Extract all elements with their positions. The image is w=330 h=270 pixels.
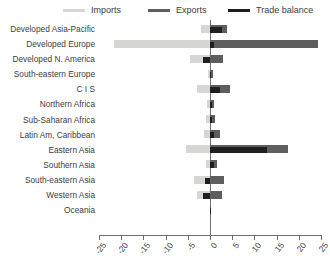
bar-trade-balance bbox=[210, 117, 212, 123]
legend-label-exports: Exports bbox=[176, 5, 207, 15]
category-label: Northern Africa bbox=[40, 100, 95, 109]
category-label: South-eastern Asia bbox=[25, 176, 95, 185]
x-axis: -25-20-15-10-50510152025 bbox=[99, 235, 321, 270]
bar-exports bbox=[210, 40, 318, 48]
category-label: South-eastern Europe bbox=[14, 70, 95, 79]
bar-trade-balance bbox=[210, 132, 214, 138]
legend-swatch-exports bbox=[148, 9, 170, 12]
bar-imports bbox=[197, 85, 210, 93]
legend-label-imports: Imports bbox=[91, 5, 121, 15]
category-label: C I S bbox=[77, 85, 95, 94]
legend-item-imports: Imports bbox=[63, 0, 121, 20]
bar-trade-balance bbox=[210, 102, 212, 108]
category-label: Developed Europe bbox=[26, 40, 95, 49]
bar-exports bbox=[210, 176, 224, 184]
bar-trade-balance bbox=[203, 57, 210, 63]
category-label: Southern Asia bbox=[43, 161, 95, 170]
bar-exports bbox=[210, 55, 223, 63]
bar-trade-balance bbox=[210, 162, 214, 168]
bar-trade-balance bbox=[210, 147, 267, 153]
category-label: Western Asia bbox=[46, 191, 95, 200]
bar-trade-balance bbox=[203, 193, 210, 199]
category-label: Latin Am, Caribbean bbox=[20, 131, 95, 140]
plot-area: Developed Asia-PacificDeveloped EuropeDe… bbox=[0, 20, 321, 235]
category-label: Oceania bbox=[64, 206, 95, 215]
zero-baseline bbox=[210, 20, 211, 235]
category-label: Sub-Saharan Africa bbox=[23, 116, 95, 125]
chart-legend: Imports Exports Trade balance bbox=[0, 0, 321, 20]
bar-trade-balance bbox=[210, 42, 214, 48]
bar-trade-balance bbox=[210, 72, 211, 78]
legend-item-exports: Exports bbox=[148, 0, 207, 20]
bar-imports bbox=[186, 145, 210, 153]
bar-imports bbox=[201, 25, 210, 33]
category-label: Developed N. America bbox=[12, 55, 95, 64]
legend-swatch-imports bbox=[63, 9, 85, 12]
category-label: Developed Asia-Pacific bbox=[10, 25, 95, 34]
legend-label-trade-balance: Trade balance bbox=[256, 5, 313, 15]
bars-container bbox=[99, 20, 321, 235]
bar-exports bbox=[210, 191, 222, 199]
category-axis-labels: Developed Asia-PacificDeveloped EuropeDe… bbox=[0, 20, 97, 235]
legend-item-trade-balance: Trade balance bbox=[228, 0, 313, 20]
bar-imports bbox=[114, 40, 210, 48]
bar-trade-balance bbox=[205, 178, 210, 184]
bar-trade-balance bbox=[210, 208, 211, 214]
bar-trade-balance bbox=[210, 27, 222, 33]
bar-trade-balance bbox=[210, 87, 220, 93]
legend-swatch-trade-balance bbox=[228, 9, 250, 12]
category-label: Eastern Asia bbox=[48, 146, 95, 155]
